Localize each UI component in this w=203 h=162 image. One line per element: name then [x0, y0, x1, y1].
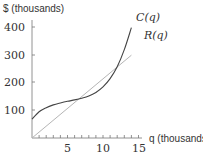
x-tick-label: 5 — [64, 142, 71, 155]
cost-curve — [32, 28, 131, 120]
x-axis-label: q (thousands) — [149, 133, 203, 144]
y-tick-label: 100 — [4, 104, 25, 117]
y-tick-label: 400 — [4, 21, 25, 34]
y-ticks — [32, 27, 35, 110]
revenue-line-label: R(q) — [143, 29, 168, 42]
x-tick-label: 15 — [132, 142, 146, 155]
y-axis-label: $ (thousands) — [3, 3, 64, 14]
y-tick-label: 200 — [4, 76, 25, 89]
cost-curve-label: C(q) — [136, 11, 160, 24]
x-tick-label: 10 — [96, 142, 110, 155]
chart: 400 300 200 100 5 10 15 $ (thousands) q … — [0, 0, 203, 162]
y-tick-label: 300 — [4, 49, 25, 62]
x-ticks — [39, 135, 138, 138]
